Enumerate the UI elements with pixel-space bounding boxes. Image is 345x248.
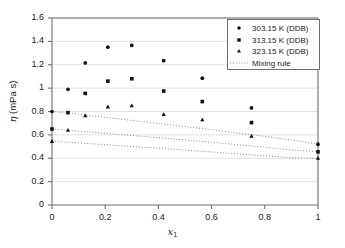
y-tick-label: 0.2 [18,176,44,186]
data-point [162,112,166,116]
data-point [83,61,87,65]
data-point [106,79,110,83]
x-tick-label: 0.6 [199,212,225,222]
data-point [162,89,166,93]
data-point [250,106,254,110]
legend-label: Mixing rule [252,59,291,68]
legend-label: 303.15 K (DDB) [252,24,308,33]
y-tick-label: 1 [18,82,44,92]
y-tick-label: 0.8 [18,106,44,116]
legend-item: Mixing rule [230,58,291,69]
data-point [106,105,110,109]
y-tick-label: 0.4 [18,152,44,162]
x-tick-label: 0.2 [92,212,118,222]
mixing-rule-curve [52,129,318,152]
data-point [250,121,254,125]
data-point [316,150,320,154]
chart-figure: η (mPa s) x1 00.20.40.60.811.21.41.6 00.… [0,0,345,248]
legend-item: 303.15 K (DDB) [230,23,308,34]
y-axis-label: η (mPa s) [7,72,18,132]
y-tick-label: 0.6 [18,129,44,139]
data-point [130,103,134,107]
y-tick-label: 1.4 [18,35,44,45]
data-point [50,139,54,143]
legend-item: 323.15 K (DDB) [230,46,308,57]
legend-glyph [237,38,240,41]
x-tick-label: 1 [305,212,331,222]
legend-label: 313.15 K (DDB) [252,36,308,45]
mixing-rule-curve [52,141,318,158]
data-point [200,117,204,121]
legend-item: 313.15 K (DDB) [230,35,308,46]
data-point [66,87,70,91]
x-tick-label: 0 [39,212,65,222]
data-point [83,92,87,96]
x-tick-label: 0.8 [252,212,278,222]
legend-glyph [237,49,241,53]
x-tick-label: 0.4 [145,212,171,222]
data-point [162,59,166,63]
x-axis-label: x1 [0,226,345,237]
data-point [316,142,320,146]
data-point [50,110,54,114]
y-tick-label: 1.2 [18,59,44,69]
y-tick-label: 1.6 [18,12,44,22]
data-point [200,100,204,104]
data-point [50,127,54,131]
y-tick-label: 0 [18,199,44,209]
mixing-rule-curve [52,112,318,145]
data-point [66,111,70,115]
data-point [130,44,134,48]
data-point [66,128,70,132]
legend-label: 323.15 K (DDB) [252,47,308,56]
data-point [130,77,134,81]
legend-glyph [237,26,241,30]
data-point [106,45,110,49]
data-point [200,76,204,80]
